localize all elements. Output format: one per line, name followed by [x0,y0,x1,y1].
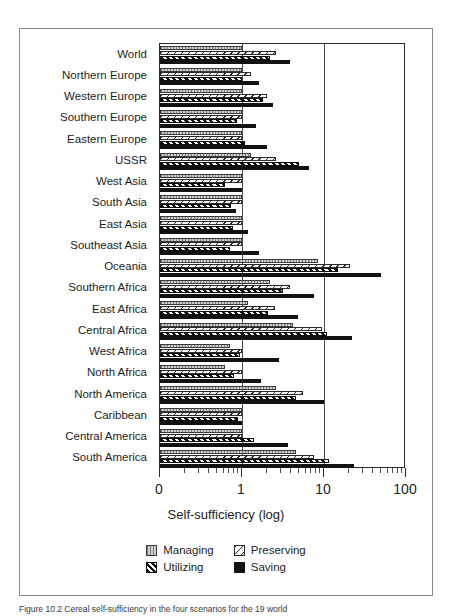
x-axis-title: Self-sufficiency (log) [20,507,432,522]
bar-utilizing [160,56,270,60]
bar-group [160,129,404,150]
bar-utilizing [160,141,245,145]
x-tick-major [159,468,160,477]
bar-preserving [160,412,242,416]
x-tick-minor [280,468,281,473]
legend-item-saving: Saving [234,561,306,573]
y-axis-label: South Asia [92,196,147,208]
y-axis-label: Southern Europe [60,111,147,123]
bar-managing [160,153,251,157]
bar-utilizing [160,396,296,400]
bar-group [160,320,404,341]
utilizing-swatch [146,562,157,573]
bar-preserving [160,51,276,55]
x-tick-minor [348,468,349,473]
y-axis-label: North America [74,388,147,400]
legend: ManagingPreservingUtilizingSaving [20,544,432,573]
bar-group [160,448,404,469]
bar-utilizing [160,204,231,208]
x-tick-minor [401,468,402,473]
bar-managing [160,174,242,178]
x-tick-minor [198,468,199,473]
bar-saving [160,230,248,234]
bar-rows [160,44,404,467]
bar-preserving [160,221,242,225]
bar-preserving [160,179,242,183]
bar-group [160,87,404,108]
legend-label: Saving [251,561,286,573]
x-tick-label: 100 [393,481,416,497]
x-tick-major [323,468,324,477]
y-axis-label: Western Europe [64,90,147,102]
bar-saving [160,294,314,298]
bar-utilizing [160,226,233,230]
y-axis-label: West Africa [89,345,147,357]
bar-utilizing [160,119,237,123]
bar-saving [160,60,290,64]
bar-saving [160,81,259,85]
bar-managing [160,259,318,263]
bar-managing [160,280,270,284]
bar-group [160,363,404,384]
bar-utilizing [160,247,230,251]
bar-utilizing [160,162,299,166]
y-axis-label: World [117,48,147,60]
y-axis-label: Eastern Europe [67,133,147,145]
bar-utilizing [160,77,242,81]
y-axis-label: Caribbean [94,409,147,421]
bar-saving [160,336,352,340]
legend-label: Managing [163,544,214,556]
x-tick-minor [233,468,234,473]
y-axis-label: Southern Africa [68,281,147,293]
saving-swatch [234,562,245,573]
x-tick-minor [310,468,311,473]
bar-managing [160,323,293,327]
bar-preserving [160,72,251,76]
y-axis-label: East Asia [99,218,147,230]
bar-saving [160,251,259,255]
bar-managing [160,365,225,369]
bar-group [160,193,404,214]
y-axis-label: West Asia [96,175,147,187]
bar-group [160,108,404,129]
bar-utilizing [160,417,238,421]
x-tick-minor [387,468,388,473]
y-axis-label: Central Africa [78,324,147,336]
bar-saving [160,273,381,277]
bar-managing [160,429,242,433]
bar-group [160,342,404,363]
x-tick-minor [315,468,316,473]
x-tick-minor [228,468,229,473]
bar-saving [160,188,242,192]
bar-utilizing [160,353,240,357]
bar-utilizing [160,374,234,378]
y-axis-label: USSR [115,154,147,166]
x-tick-label: 10 [315,481,331,497]
bar-group [160,172,404,193]
bar-managing [160,238,242,242]
bar-saving [160,421,242,425]
bar-utilizing [160,268,338,272]
bar-managing [160,195,242,199]
y-axis-label: South America [72,451,147,463]
bar-managing [160,110,242,114]
bar-saving [160,209,236,213]
bar-saving [160,358,279,362]
bar-group [160,214,404,235]
bar-group [160,257,404,278]
y-axis-labels: WorldNorthern EuropeWestern EuropeSouthe… [20,43,153,468]
bar-managing [160,301,248,305]
bar-managing [160,131,242,135]
bar-saving [160,315,298,319]
bar-preserving [160,455,314,459]
bar-preserving [160,349,242,353]
x-tick-minor [397,468,398,473]
x-tick-minor [290,468,291,473]
legend-label: Utilizing [163,561,203,573]
x-tick-major [405,468,406,477]
bar-utilizing [160,332,327,336]
bar-preserving [160,200,242,204]
x-tick-minor [305,468,306,473]
bar-group [160,150,404,171]
bar-saving [160,166,309,170]
